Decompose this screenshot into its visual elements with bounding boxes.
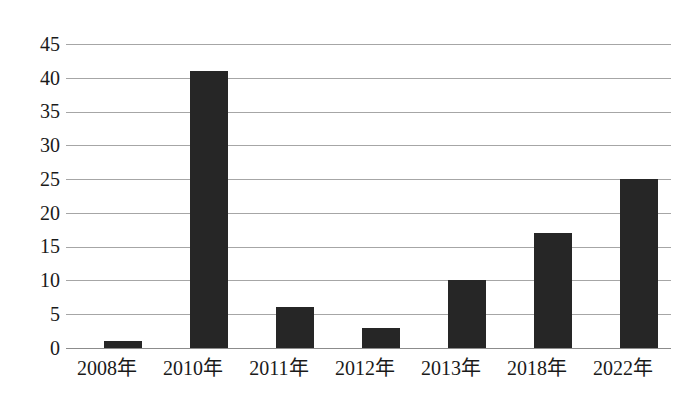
bar-2008 — [104, 341, 142, 348]
y-axis-labels: 45 40 35 30 25 20 15 10 5 0 — [0, 0, 60, 410]
y-tick-label: 40 — [14, 68, 60, 88]
x-tick-label-2022: 2022年 — [563, 356, 683, 380]
bar-2012 — [362, 328, 400, 348]
y-tick-label: 10 — [14, 270, 60, 290]
bar-chart: 45 40 35 30 25 20 15 10 5 0 2008年 2010年 — [0, 0, 699, 410]
bar-2022 — [620, 179, 658, 348]
bar-2010 — [190, 71, 228, 348]
bar-2011 — [276, 307, 314, 348]
y-tick-label: 25 — [14, 169, 60, 189]
bars-layer — [66, 44, 671, 348]
bar-2018 — [534, 233, 572, 348]
x-axis-baseline — [66, 348, 671, 349]
y-tick-label: 5 — [14, 304, 60, 324]
y-tick-label: 35 — [14, 101, 60, 121]
y-tick-label: 30 — [14, 135, 60, 155]
y-tick-label: 45 — [14, 34, 60, 54]
bar-2013 — [448, 280, 486, 348]
y-tick-label: 20 — [14, 203, 60, 223]
y-tick-label: 15 — [14, 236, 60, 256]
y-tick-label: 0 — [14, 338, 60, 358]
